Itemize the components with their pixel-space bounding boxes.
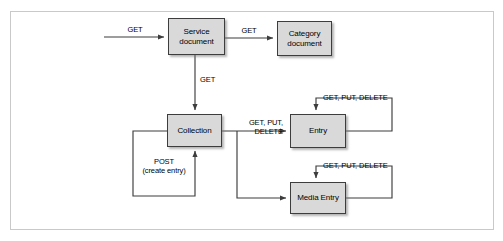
edge-label-service-to-collection-get: GET [200,75,230,84]
node-service-document-label: Service document [177,27,215,47]
node-category-document[interactable]: Category document [277,21,332,56]
figure-root: Service document Category document Colle… [0,0,503,241]
edge-label-external-get: GET [115,25,155,34]
edge-label-entry-self-loop: GET, PUT, DELETE [323,93,403,102]
node-collection-label: Collection [175,126,213,136]
node-entry[interactable]: Entry [290,114,346,148]
edge-label-service-to-category-get: GET [231,26,267,35]
node-media-entry-label: Media Entry [295,193,341,203]
connector-collection-to-media-entry [237,131,286,198]
node-category-document-label: Category document [285,29,323,49]
node-collection[interactable]: Collection [167,114,222,147]
node-media-entry[interactable]: Media Entry [290,182,346,214]
node-entry-label: Entry [307,126,329,136]
node-service-document[interactable]: Service document [168,18,225,55]
edge-label-collection-to-entry: GET, PUT, DELETE [227,118,283,136]
edge-label-collection-post: POST (create entry) [135,157,193,175]
edge-label-media-entry-self-loop: GET, PUT, DELETE [323,161,403,170]
